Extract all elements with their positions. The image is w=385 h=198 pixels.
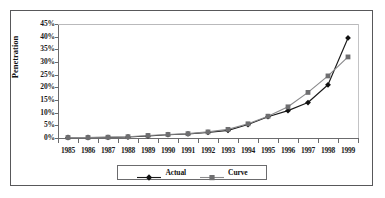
legend-swatch-actual (136, 168, 162, 177)
data-point (266, 114, 271, 119)
data-point (226, 127, 231, 132)
data-point (286, 104, 291, 109)
data-point (86, 135, 91, 140)
chart-figure: Penetration 45%40%35%30%25%20%15%10%5%0%… (0, 0, 385, 198)
data-point (186, 131, 191, 136)
series-line (68, 38, 348, 138)
data-point (306, 90, 311, 95)
chart-legend: Actual Curve (117, 165, 267, 180)
data-point (326, 74, 331, 79)
data-point (66, 135, 71, 140)
legend-entry-curve[interactable]: Curve (199, 168, 248, 177)
series-actual (65, 35, 351, 140)
data-point (166, 132, 171, 137)
legend-swatch-curve (199, 168, 225, 177)
data-point (106, 135, 111, 140)
legend-label-actual: Actual (165, 168, 186, 177)
data-point (345, 35, 351, 41)
data-point (346, 55, 351, 60)
legend-entry-actual[interactable]: Actual (136, 168, 186, 177)
data-point (206, 130, 211, 135)
legend-label-curve: Curve (228, 168, 248, 177)
data-point (146, 133, 151, 138)
series-line (68, 57, 348, 138)
data-point (246, 121, 251, 126)
series-curve (66, 55, 351, 140)
data-point (126, 134, 131, 139)
